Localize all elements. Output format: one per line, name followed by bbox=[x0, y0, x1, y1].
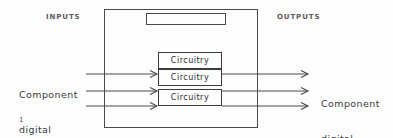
output-signal-line-1: Component bbox=[321, 98, 380, 110]
circuitry-block-2: Circuitry bbox=[158, 69, 222, 86]
circuitry-block-3: Circuitry bbox=[158, 89, 222, 106]
circuitry-block-1: Circuitry bbox=[158, 52, 222, 69]
outputs-label: OUTPUTS bbox=[277, 13, 320, 22]
figure-number: 1 bbox=[19, 116, 23, 125]
top-module-box bbox=[146, 13, 226, 25]
circuitry-block-2-label: Circuitry bbox=[171, 74, 209, 82]
block-diagram: INPUTS OUTPUTS Component digital Compone… bbox=[0, 0, 393, 138]
inputs-label: INPUTS bbox=[46, 13, 81, 22]
output-signal-label: Component digital bbox=[321, 74, 380, 138]
input-signal-label: Component digital bbox=[19, 65, 78, 138]
output-signal-line-2: digital bbox=[321, 133, 380, 138]
circuitry-block-3-label: Circuitry bbox=[171, 94, 209, 102]
input-signal-line-1: Component bbox=[19, 89, 78, 101]
input-signal-line-2: digital bbox=[19, 124, 78, 136]
circuitry-block-1-label: Circuitry bbox=[171, 57, 209, 65]
